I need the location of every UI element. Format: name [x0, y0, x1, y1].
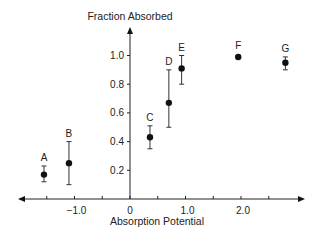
y-axis-arrow — [127, 27, 133, 34]
axes — [18, 27, 305, 202]
data-point — [178, 65, 184, 71]
data-point-label: F — [235, 40, 241, 51]
y-tick-label: 1.0 — [110, 50, 124, 61]
x-tick-label: 2.0 — [236, 205, 250, 216]
data-point — [282, 59, 288, 65]
data-point — [235, 54, 241, 60]
x-tick-label: −1.0 — [67, 205, 87, 216]
x-axis-right-arrow — [298, 196, 305, 202]
scatter-chart: −1.001.02.00.20.40.60.81.0 ABCDEFG Fract… — [0, 0, 314, 241]
data-point — [66, 160, 72, 166]
x-axis-title: Absorption Potential — [110, 215, 204, 227]
data-point-group: E — [178, 42, 185, 85]
data-points: ABCDEFG — [41, 40, 290, 185]
data-point-label: E — [178, 42, 185, 53]
data-point-label: B — [66, 128, 73, 139]
data-point-group: G — [282, 43, 290, 70]
data-point-label: A — [41, 152, 48, 163]
data-point-group: B — [66, 128, 73, 185]
data-point — [147, 134, 153, 140]
y-axis-title: Fraction Absorbed — [87, 10, 172, 22]
data-point — [41, 171, 47, 177]
y-tick-label: 0.6 — [110, 107, 124, 118]
data-point-group: C — [146, 112, 153, 149]
data-point-group: F — [235, 40, 241, 60]
y-tick-label: 0.8 — [110, 79, 124, 90]
x-axis-left-arrow — [18, 196, 25, 202]
y-tick-label: 0.2 — [110, 165, 124, 176]
data-point-group: A — [41, 152, 48, 182]
data-point-group: D — [165, 56, 172, 127]
data-point — [166, 100, 172, 106]
data-point-label: D — [165, 56, 172, 67]
ticks: −1.001.02.00.20.40.60.81.0 — [47, 50, 269, 216]
data-point-label: G — [282, 43, 290, 54]
y-tick-label: 0.4 — [110, 136, 124, 147]
data-point-label: C — [146, 112, 153, 123]
